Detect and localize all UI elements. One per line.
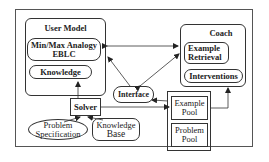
edges-layer xyxy=(0,0,269,162)
edge-examplepool-coach xyxy=(211,88,228,108)
edge-examplepool-interface xyxy=(152,100,168,101)
edge-problemspec-solver xyxy=(64,117,80,122)
edge-knowledgebase-solver xyxy=(88,117,103,120)
edge-interface-coach xyxy=(140,54,179,86)
edge-interface-usermodel xyxy=(108,57,130,86)
